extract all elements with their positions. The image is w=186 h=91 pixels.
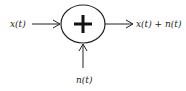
output-label: x(t) + n(t) <box>136 19 182 29</box>
summing-junction <box>61 5 105 43</box>
input-label: x(t) <box>10 19 26 29</box>
diagram-canvas: x(t) x(t) + n(t) n(t) <box>0 0 186 91</box>
noise-label: n(t) <box>76 75 93 85</box>
